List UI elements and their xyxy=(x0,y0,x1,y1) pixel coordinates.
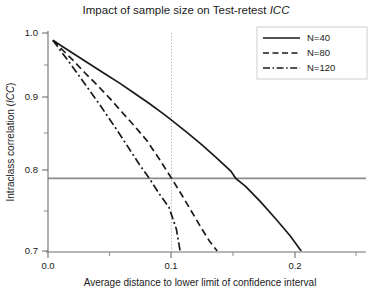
chart-title-plain: Impact of sample size on Test-retest xyxy=(83,4,270,16)
x-tick-label-1: 0.1 xyxy=(164,260,177,271)
chart-svg: Impact of sample size on Test-retest ICC xyxy=(0,0,373,292)
legend-label-n80: N=80 xyxy=(307,47,330,58)
y-tick-label-3: 1.0 xyxy=(25,27,38,38)
y-tick-label-1: 0.8 xyxy=(25,164,38,175)
chart-legend: N=40 N=80 N=120 xyxy=(257,27,367,79)
chart-title-italic: ICC xyxy=(270,4,291,16)
y-axis-label-plain: Intraclass correlation ( xyxy=(5,102,16,201)
x-axis-label: Average distance to lower limit of confi… xyxy=(84,277,317,288)
y-axis-label-tail: ) xyxy=(5,83,16,86)
x-tick-label-0: 0.0 xyxy=(41,260,54,271)
x-tick-label-2: 0.2 xyxy=(288,260,301,271)
y-tick-label-0: 0.7 xyxy=(25,245,38,256)
legend-label-n120: N=120 xyxy=(307,62,335,73)
y-tick-label-2: 0.9 xyxy=(25,91,38,102)
legend-label-n40: N=40 xyxy=(307,32,330,43)
chart-title: Impact of sample size on Test-retest ICC xyxy=(83,4,291,16)
y-axis-label: Intraclass correlation (ICC) xyxy=(5,83,16,202)
y-axis-label-italic: ICC xyxy=(5,85,16,103)
chart-figure: Impact of sample size on Test-retest ICC xyxy=(0,0,373,292)
